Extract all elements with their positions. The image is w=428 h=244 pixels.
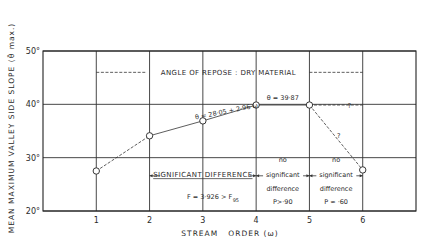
data-point	[93, 168, 99, 174]
no-significant-text: difference	[320, 185, 353, 193]
arrow-head	[309, 174, 312, 177]
x-tick-label: 5	[307, 216, 312, 225]
significant-difference-label: SIGNIFICANT DIFFERENCE	[153, 171, 252, 179]
no-significant-difference-5-6: nosignificantdifferenceP ≈ ·60	[319, 156, 353, 206]
no-significant-text: no	[332, 156, 340, 164]
x-tick-label: 3	[200, 216, 205, 225]
angle-of-repose-reference: ANGLE OF REPOSE : DRY MATERIAL	[96, 69, 362, 77]
f-test-label: F = 3·926 > F 95	[187, 193, 239, 203]
plateau-value: θ = 39·87	[267, 94, 299, 102]
f-test-subscript: 95	[233, 197, 239, 203]
chart: MEAN MAXIMUM VALLEY SIDE SLOPE (θ̄ max.)…	[0, 0, 428, 244]
y-tick-label: 20°	[26, 207, 40, 216]
y-tick-label: 40°	[26, 100, 40, 109]
y-axis-label: MEAN MAXIMUM VALLEY SIDE SLOPE (θ̄ max.)	[7, 23, 16, 234]
f-test-text: F = 3·926 > F	[187, 193, 233, 201]
uncertain-mark-diagonal: ?	[337, 132, 340, 140]
x-tick-label: 1	[94, 216, 99, 225]
no-significant-text: significant	[266, 171, 300, 179]
series-segment	[96, 136, 149, 171]
no-significant-text: difference	[266, 185, 299, 193]
data-point	[360, 167, 366, 173]
no-significant-text: P>·90	[273, 198, 293, 206]
no-significant-text: P ≈ ·60	[324, 198, 348, 206]
x-tick-label: 2	[147, 216, 152, 225]
data-point	[306, 102, 312, 108]
series-segment	[150, 121, 203, 136]
x-axis-label: STREAM ORDER (ω)	[181, 229, 278, 238]
uncertain-mark-horizontal: ?	[348, 102, 351, 110]
no-significant-text: no	[279, 156, 287, 164]
y-tick-label: 50°	[26, 47, 40, 56]
no-significant-text: significant	[319, 171, 353, 179]
x-tick-label: 4	[254, 216, 259, 225]
no-significant-difference-4-5: nosignificantdifferenceP>·90	[266, 156, 300, 206]
data-point	[146, 133, 152, 139]
reference-label: ANGLE OF REPOSE : DRY MATERIAL	[161, 69, 296, 77]
y-tick-label: 30°	[26, 154, 40, 163]
x-tick-label: 6	[360, 216, 365, 225]
